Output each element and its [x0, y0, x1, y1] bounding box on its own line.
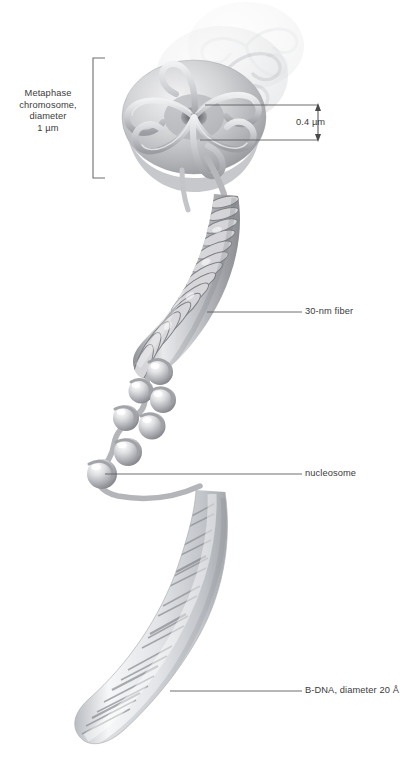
- beads-on-a-string: [87, 359, 200, 498]
- figure-canvas: Metaphase chromosome, diameter 1 µm 0.4 …: [0, 0, 417, 765]
- label-metaphase-line3: diameter: [30, 111, 67, 121]
- label-metaphase-line4: 1 µm: [37, 123, 58, 133]
- metaphase-bracket: [93, 58, 105, 178]
- label-metaphase-line1: Metaphase: [25, 88, 72, 98]
- label-metaphase-line2: chromosome,: [19, 100, 76, 110]
- label-30-nm-fiber: 30-nm fiber: [305, 306, 415, 318]
- metaphase-chromosome-disc: [122, 60, 266, 210]
- label-nucleosome: nucleosome: [305, 468, 415, 480]
- label-b-dna: B-DNA, diameter 20 Å: [305, 685, 417, 697]
- label-metaphase-chromosome: Metaphase chromosome, diameter 1 µm: [8, 88, 88, 134]
- thirty-nm-fiber: [128, 194, 240, 388]
- b-dna-double-helix: [75, 490, 228, 748]
- label-scale-0-4-um: 0.4 µm: [296, 117, 356, 129]
